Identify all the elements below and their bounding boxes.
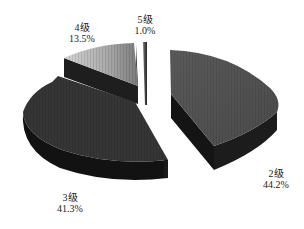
- label-level-5-name: 5级: [125, 14, 165, 25]
- slice-level-5: [143, 42, 147, 105]
- label-level-2-name: 2级: [256, 168, 296, 179]
- label-level-2-value: 44.2%: [256, 179, 296, 190]
- label-level-4: 4级 13.5%: [62, 22, 102, 44]
- label-level-5: 5级 1.0%: [125, 14, 165, 36]
- label-level-5-value: 1.0%: [125, 25, 165, 36]
- slice-level-2: [170, 50, 278, 170]
- label-level-4-value: 13.5%: [62, 33, 102, 44]
- label-level-4-name: 4级: [62, 22, 102, 33]
- label-level-3-name: 3级: [50, 192, 90, 203]
- label-level-3-value: 41.3%: [50, 203, 90, 214]
- label-level-3: 3级 41.3%: [50, 192, 90, 214]
- label-level-2: 2级 44.2%: [256, 168, 296, 190]
